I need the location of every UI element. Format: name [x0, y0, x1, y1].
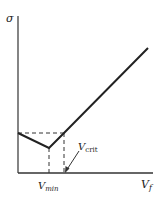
chart-canvas: σ Vmin Vcrit Vf — [0, 0, 165, 199]
vmin-label: Vmin — [38, 180, 59, 193]
x-axis-label: Vf — [141, 178, 154, 192]
vcrit-label: Vcrit — [78, 141, 98, 154]
y-axis-label: σ — [6, 12, 14, 25]
strength-curve — [18, 48, 148, 148]
